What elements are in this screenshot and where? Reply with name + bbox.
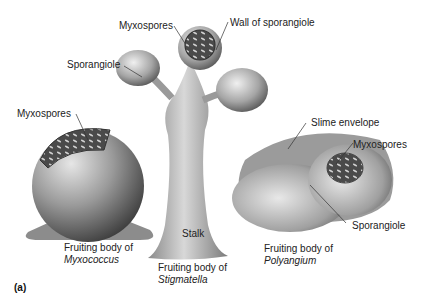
label-wall-of-sporangiole: Wall of sporangiole xyxy=(230,17,315,29)
label-slime-envelope: Slime envelope xyxy=(311,117,379,129)
caption-genus: Polyangium xyxy=(264,255,316,266)
caption-line: Fruiting body of xyxy=(64,242,133,253)
caption-line: Fruiting body of xyxy=(264,243,333,254)
label-stalk: Stalk xyxy=(182,228,204,240)
label-myxospores-left: Myxospores xyxy=(17,108,71,120)
stigmatella-spore-opening xyxy=(185,30,215,60)
label-myxospores-top: Myxospores xyxy=(119,20,173,32)
caption-genus: Myxococcus xyxy=(64,254,119,265)
label-myxospores-right: Myxospores xyxy=(353,139,407,151)
panel-label: (a) xyxy=(14,282,26,293)
polyangium-spore-opening xyxy=(327,153,363,183)
caption-line: Fruiting body of xyxy=(158,262,227,273)
label-sporangiole-right: Sporangiole xyxy=(352,220,405,232)
caption-genus: Stigmatella xyxy=(158,274,207,285)
caption-stigmatella: Fruiting body of Stigmatella xyxy=(158,262,227,286)
stigmatella-sporangiole-right xyxy=(216,68,268,112)
stigmatella-sporangiole-left xyxy=(116,50,160,86)
fruiting-bodies-diagram: Myxospores Wall of sporangiole Sporangio… xyxy=(0,0,430,297)
caption-myxococcus: Fruiting body of Myxococcus xyxy=(64,242,133,266)
caption-polyangium: Fruiting body of Polyangium xyxy=(264,243,333,267)
label-sporangiole-left: Sporangiole xyxy=(67,59,120,71)
